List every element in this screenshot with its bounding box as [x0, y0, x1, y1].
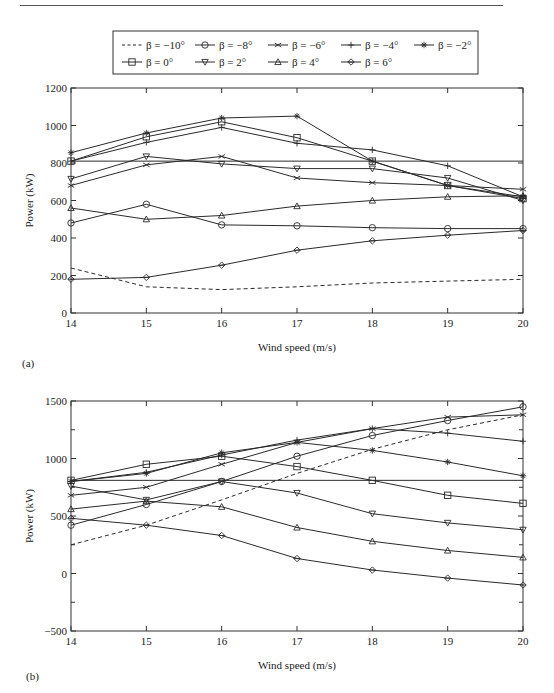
panel-label: (b): [26, 670, 39, 683]
diamond-marker-icon: [218, 262, 224, 268]
legend-entry: β = −6°: [268, 39, 325, 51]
star-marker-icon: [143, 130, 149, 136]
series-polyline: [71, 204, 523, 228]
y-tick-label: 800: [51, 157, 68, 169]
y-tick-label: 1000: [45, 453, 68, 465]
x-tick-label: 19: [442, 635, 454, 647]
plus-marker-icon: [444, 163, 450, 169]
diamond-marker-icon: [444, 232, 450, 238]
series-line: [68, 227, 526, 282]
diamond-marker-icon: [348, 59, 354, 65]
diamond-marker-icon: [369, 238, 375, 244]
y-tick-label: 0: [62, 568, 68, 580]
legend: β = −10°β = −8°β = −6°β = −4°β = −2°β = …: [113, 31, 478, 74]
star-marker-icon: [143, 470, 149, 476]
panel-label: (a): [22, 357, 35, 370]
plot-frame: [71, 88, 523, 313]
plus-marker-icon: [348, 42, 354, 48]
plus-marker-icon: [444, 430, 450, 436]
legend-entry: β = 6°: [341, 56, 392, 68]
legend-entry: β = −2°: [414, 39, 471, 51]
legend-entry: β = 4°: [268, 56, 319, 68]
series-polyline: [71, 268, 523, 290]
figure: β = −10°β = −8°β = −6°β = −4°β = −2°β = …: [0, 0, 554, 693]
legend-label: β = −8°: [219, 39, 252, 51]
y-tick-label: 400: [51, 232, 68, 244]
diamond-marker-icon: [294, 555, 300, 561]
x-tick-label: 18: [367, 635, 379, 647]
legend-label: β = −4°: [365, 39, 398, 51]
y-axis-title: Power (kW): [23, 489, 36, 543]
diamond-marker-icon: [369, 567, 375, 573]
y-tick-label: 500: [51, 510, 68, 522]
y-tick-label: 600: [51, 195, 68, 207]
x-tick-label: 15: [141, 635, 153, 647]
legend-label: β = 0°: [146, 56, 173, 68]
plus-marker-icon: [520, 438, 526, 444]
series-polyline: [71, 482, 523, 530]
x-tick-label: 14: [66, 317, 78, 329]
y-tick-label: 200: [51, 270, 68, 282]
diamond-marker-icon: [294, 247, 300, 253]
star-marker-icon: [520, 473, 526, 479]
legend-entry: β = 2°: [195, 56, 246, 68]
legend-entry: β = −4°: [341, 39, 398, 51]
legend-label: β = −10°: [146, 39, 185, 51]
x-tick-label: 14: [66, 635, 78, 647]
star-marker-icon: [218, 115, 224, 121]
series-polyline: [71, 501, 523, 557]
series-polyline: [71, 116, 523, 197]
star-marker-icon: [421, 42, 427, 48]
star-marker-icon: [68, 149, 74, 155]
plus-marker-icon: [369, 147, 375, 153]
star-marker-icon: [294, 113, 300, 119]
chart-panel-b: 14151617181920−500050010001500Wind speed…: [23, 395, 529, 683]
series-polyline: [71, 429, 523, 482]
legend-entry: β = 0°: [122, 56, 173, 68]
x-tick-label: 18: [367, 317, 379, 329]
legend-entry: β = −8°: [195, 39, 252, 51]
x-tick-label: 16: [216, 635, 228, 647]
y-axis-title: Power (kW): [23, 173, 36, 227]
x-axis-title: Wind speed (m/s): [258, 659, 336, 672]
plus-marker-icon: [369, 425, 375, 431]
series-line: [71, 268, 523, 290]
y-tick-label: 1500: [45, 395, 68, 407]
diamond-marker-icon: [444, 575, 450, 581]
legend-label: β = −6°: [292, 39, 325, 51]
x-axis-title: Wind speed (m/s): [258, 341, 336, 354]
star-marker-icon: [444, 459, 450, 465]
series-line: [68, 439, 526, 485]
series-polyline: [71, 231, 523, 280]
legend-label: β = 6°: [365, 56, 392, 68]
series-polyline: [71, 442, 523, 481]
series-line: [68, 119, 526, 202]
y-tick-label: 1200: [45, 82, 68, 94]
series-polyline: [71, 196, 523, 220]
series-line: [68, 155, 526, 192]
x-tick-label: 19: [442, 317, 454, 329]
x-marker-icon: [218, 462, 224, 466]
diamond-marker-icon: [218, 532, 224, 538]
x-tick-label: 20: [518, 635, 530, 647]
diamond-marker-icon: [143, 274, 149, 280]
x-tick-label: 17: [292, 317, 304, 329]
legend-label: β = 4°: [292, 56, 319, 68]
y-tick-label: 1000: [45, 120, 68, 132]
x-tick-label: 15: [141, 317, 153, 329]
y-tick-label: 0: [62, 307, 68, 319]
legend-entry: β = −10°: [122, 39, 185, 51]
series-line: [68, 425, 526, 484]
x-tick-label: 20: [518, 317, 530, 329]
x-tick-label: 17: [292, 635, 304, 647]
series-line: [68, 413, 526, 497]
series-polyline: [71, 122, 523, 199]
chart-panel-a: 14151617181920020040060080010001200Wind …: [22, 82, 529, 370]
y-tick-label: −500: [44, 625, 67, 637]
diamond-marker-icon: [143, 522, 149, 528]
legend-label: β = 2°: [219, 56, 246, 68]
star-marker-icon: [369, 447, 375, 453]
series-polyline: [71, 415, 523, 496]
plot-frame: [71, 401, 523, 631]
legend-label: β = −2°: [438, 39, 471, 51]
